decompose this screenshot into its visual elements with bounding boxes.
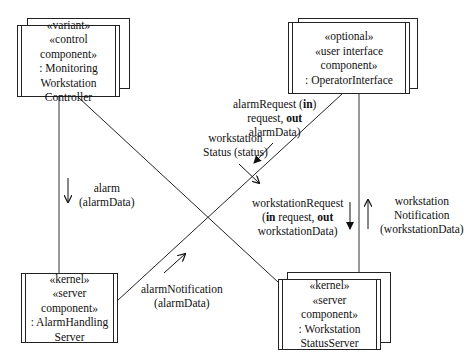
message-alarm-request: alarmRequest (in) request, out alarmData… (233, 97, 316, 139)
stereotype-control-component: «control component» (22, 32, 115, 61)
stereotype-variant: «variant» (22, 18, 115, 33)
component-name: : Workstation (283, 322, 376, 337)
stereotype-user-interface-component: «user interface component» (293, 44, 405, 73)
component-name: : OperatorInterface (293, 73, 405, 88)
stereotype-server-component: «server component» (283, 293, 376, 322)
component-name: Controller (22, 90, 115, 105)
component-name: Workstation (22, 76, 115, 91)
arrow-alarm-notification (164, 254, 185, 273)
stereotype-optional: «optional» (293, 29, 405, 44)
component-alarm-handling-server[interactable]: «kernel» «server component» : AlarmHandl… (21, 273, 118, 343)
component-monitoring-workstation-controller[interactable]: «variant» «control component» : Monitori… (17, 25, 120, 97)
message-workstation-request: workstationRequest (in request, out work… (252, 196, 343, 238)
component-name: : AlarmHandling (26, 315, 113, 330)
message-alarm: alarm (alarmData) (79, 181, 135, 209)
stereotype-server-component: «server component» (26, 286, 113, 315)
component-name: StatusServer (283, 336, 376, 351)
component-name: Server (26, 330, 113, 345)
message-workstation-notification: workstation Notification (workstationDat… (380, 194, 464, 236)
message-alarm-notification: alarmNotification (alarmData) (141, 282, 223, 310)
component-workstation-status-server[interactable]: «kernel» «server component» : Workstatio… (278, 279, 381, 350)
stereotype-kernel: «kernel» (26, 272, 113, 287)
stereotype-kernel: «kernel» (283, 278, 376, 293)
component-name: : Monitoring (22, 61, 115, 76)
component-operator-interface[interactable]: «optional» «user interface component» : … (288, 22, 410, 94)
